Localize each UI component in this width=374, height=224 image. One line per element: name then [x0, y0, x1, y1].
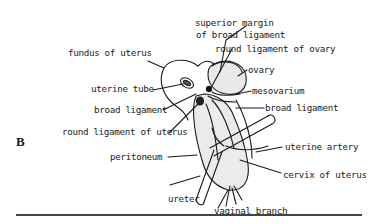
label-peritoneum: peritoneum: [110, 152, 162, 162]
label-uterine-artery: uterine artery: [285, 142, 358, 152]
label-round-ligament-ovary: round ligament of ovary: [215, 44, 335, 54]
panel-label: B: [16, 134, 25, 150]
label-mesovarium: mesovarium: [252, 86, 304, 96]
label-broad-ligament-right: broad ligament: [265, 103, 338, 113]
label-ovary: ovary: [248, 65, 274, 75]
label-round-ligament-uterus: round ligament of uterus: [62, 127, 188, 137]
label-fundus: fundus of uterus: [68, 48, 152, 58]
label-cervix: cervix of uterus: [283, 170, 367, 180]
label-superior-margin-1: superior margin: [195, 18, 273, 28]
label-uterine-tube: uterine tube: [91, 84, 154, 94]
label-broad-ligament-left: broad ligament: [94, 105, 167, 115]
label-superior-margin-2: of broad ligament: [196, 30, 285, 40]
bottom-rule: [16, 214, 362, 216]
ovary-shape: [208, 61, 246, 94]
label-ureter: ureter: [168, 194, 199, 204]
